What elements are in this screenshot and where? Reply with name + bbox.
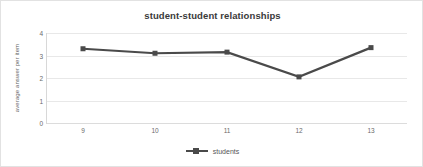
x-tick-label-13: 13 — [351, 127, 391, 134]
chart-container: student-student relationships average an… — [0, 0, 423, 167]
data-point-12 — [297, 74, 302, 79]
y-tick-label-4: 4 — [23, 30, 43, 37]
x-tick-label-9: 9 — [63, 127, 103, 134]
chart-title: student-student relationships — [1, 10, 423, 21]
y-tick-label-2: 2 — [23, 75, 43, 82]
x-tick-label-11: 11 — [207, 127, 247, 134]
x-tick-label-10: 10 — [135, 127, 175, 134]
data-point-10 — [153, 51, 158, 56]
y-tick-label-0: 0 — [23, 120, 43, 127]
y-tick-label-3: 3 — [23, 52, 43, 59]
series-students — [47, 33, 407, 123]
chart-legend: students — [1, 147, 423, 155]
x-tick-label-12: 12 — [279, 127, 319, 134]
x-axis-tick-labels: 910111213 — [47, 127, 407, 139]
legend-marker-icon — [186, 147, 208, 155]
gridline-0 — [47, 123, 407, 124]
legend-label-students: students — [213, 148, 239, 155]
data-point-9 — [81, 46, 86, 51]
y-axis-tick-labels: 43210 — [19, 33, 43, 123]
data-point-11 — [225, 50, 230, 55]
y-tick-label-1: 1 — [23, 97, 43, 104]
plot-area — [47, 33, 407, 123]
data-point-13 — [369, 45, 374, 50]
